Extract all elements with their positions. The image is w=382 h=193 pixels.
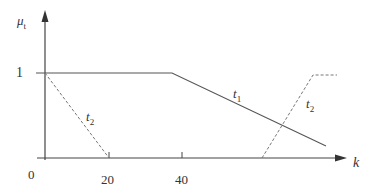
x-axis-label: k bbox=[353, 156, 359, 170]
series-t2-left bbox=[45, 73, 109, 158]
x-axis-arrow-icon bbox=[335, 155, 347, 162]
x-tick-40: 40 bbox=[175, 173, 188, 186]
t2-annotation-right: t2 bbox=[306, 97, 314, 114]
t2-annotation-left: t2 bbox=[86, 110, 94, 127]
t1-annotation: t1 bbox=[233, 87, 241, 104]
chart-canvas bbox=[0, 0, 382, 193]
y-tick-1: 1 bbox=[16, 66, 23, 80]
y-axis-arrow-icon bbox=[42, 10, 49, 22]
y-axis-label: μt bbox=[17, 14, 26, 31]
series-t1 bbox=[36, 73, 326, 146]
x-tick-20: 20 bbox=[101, 173, 114, 186]
origin-label: 0 bbox=[28, 168, 35, 181]
